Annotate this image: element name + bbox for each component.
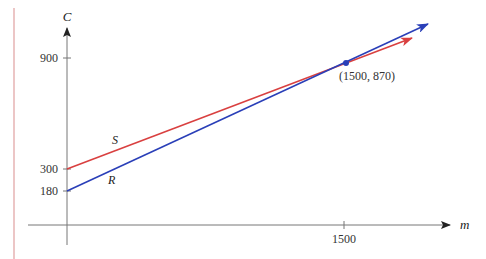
x-axis-label: m	[460, 217, 469, 232]
chart-canvas: 900 300 180 1500 C m S R (1500, 870)	[0, 0, 486, 259]
series-s-line	[67, 38, 412, 169]
y-tick-label-180: 180	[40, 184, 58, 198]
x-tick-label-1500: 1500	[332, 232, 356, 246]
series-r-label: R	[107, 173, 116, 187]
series-s-label: S	[112, 133, 118, 147]
series-r-line	[67, 24, 428, 191]
y-axis-label: C	[63, 9, 72, 24]
intersection-label: (1500, 870)	[339, 69, 395, 83]
y-tick-label-300: 300	[40, 162, 58, 176]
y-tick-label-900: 900	[40, 51, 58, 65]
chart-figure: 900 300 180 1500 C m S R (1500, 870)	[0, 0, 486, 259]
intersection-point	[343, 60, 349, 66]
